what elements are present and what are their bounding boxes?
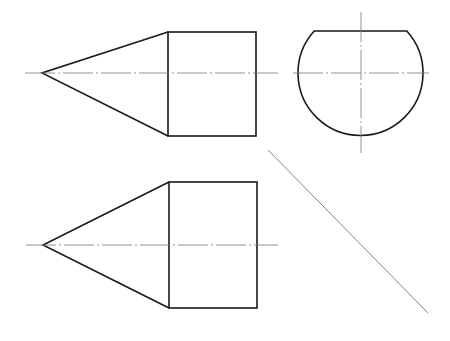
miter-line-45deg [268,150,428,313]
front-view-cylinder [168,32,256,136]
front-view-cone [42,32,168,136]
side-view-truncated-circle [298,31,423,135]
front-view [25,32,278,136]
side-view [293,12,429,153]
top-view [26,182,278,308]
projection-drawing [0,0,450,341]
